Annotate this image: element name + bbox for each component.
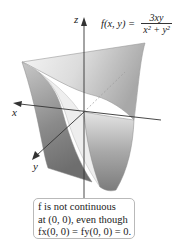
annotation-line-3: fx(0, 0) = fy(0, 0) = 0. [38,226,130,239]
annotation-line-2: at (0, 0), even though [38,214,130,227]
annotation-line-1: f is not continuous [38,201,130,214]
formula-fraction: 3xy x² + y² [141,12,172,35]
annotation-box: f is not continuous at (0, 0), even thou… [33,198,135,239]
formula-numerator: 3xy [148,12,166,23]
function-formula: f(x, y) = 3xy x² + y² [101,12,172,35]
surface-right-sheet [84,112,134,191]
z-axis-label: z [74,14,78,25]
z-axis-arrow-icon [81,17,87,26]
formula-denominator: x² + y² [141,23,172,35]
y-axis-label: y [33,161,38,172]
y-axis-arrow-icon [32,151,40,160]
formula-lhs: f(x, y) = [101,18,135,29]
x-axis-label: x [12,107,17,118]
